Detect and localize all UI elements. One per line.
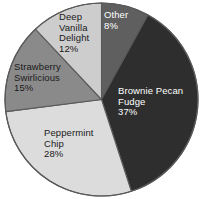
pie-chart: Other 8% Brownie Pecan Fudge 37% Pepperm… bbox=[0, 0, 203, 199]
pie-chart-canvas bbox=[0, 0, 203, 199]
pie-slice-group bbox=[5, 3, 198, 196]
